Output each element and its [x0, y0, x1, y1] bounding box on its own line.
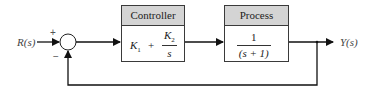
connection-lines [0, 0, 376, 90]
process-block: Process 1 (s + 1) [224, 5, 289, 62]
output-label: Y(s) [340, 37, 358, 48]
controller-block: Controller K1 + K2 s [121, 5, 185, 62]
minus-sign: − [53, 52, 59, 62]
summing-junction [60, 34, 76, 50]
process-fraction: 1 (s + 1) [237, 32, 271, 59]
controller-transfer-function: K1 + K2 s [122, 26, 184, 63]
process-title: Process [225, 6, 288, 26]
process-transfer-function: 1 (s + 1) [225, 26, 288, 63]
controller-title: Controller [122, 6, 184, 26]
plus-sign: + [50, 28, 56, 38]
k2-over-s-fraction: K2 s [162, 30, 177, 59]
k1-term: K1 [130, 39, 141, 54]
plus-operator: + [148, 39, 154, 51]
block-diagram: R(s) + − Controller K1 + K2 s Process 1 … [0, 0, 376, 90]
input-label: R(s) [17, 37, 35, 48]
